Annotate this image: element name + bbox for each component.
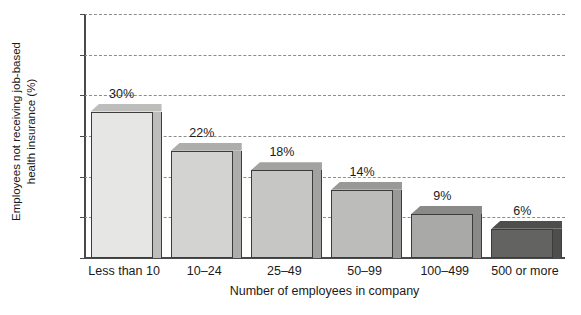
bar-side-face (473, 214, 482, 258)
bar-front-face (171, 151, 233, 258)
bar-front-face (411, 214, 473, 258)
y-axis-tick-mark (80, 136, 85, 137)
bar (91, 104, 162, 258)
bar-top-face (251, 162, 322, 170)
chart-figure: Employees not receiving job-based health… (0, 0, 581, 315)
plot-area: 30%22%18%14%9%6% (84, 14, 565, 258)
bar-side-face (313, 170, 322, 258)
bar-top-face (331, 182, 402, 190)
y-axis-tick-mark (80, 258, 85, 259)
bar-front-face (491, 229, 553, 258)
caption-sliver (6, 307, 336, 315)
x-axis-title: Number of employees in company (84, 284, 565, 298)
bar (331, 182, 402, 258)
bar-value-label: 14% (321, 165, 403, 179)
bar-value-label: 6% (481, 204, 563, 218)
bar-front-face (251, 170, 313, 258)
bar (411, 206, 482, 258)
bar-top-face (411, 206, 482, 214)
y-axis-title-line-1: Employees not receiving job-based (9, 42, 24, 221)
bar (491, 221, 562, 258)
bar-side-face (553, 229, 562, 258)
bar-value-label: 18% (241, 145, 323, 159)
bar-value-label: 22% (161, 126, 243, 140)
bar-front-face (91, 112, 153, 258)
y-axis-tick-mark (80, 177, 85, 178)
bar-top-face (491, 221, 562, 229)
gridline (84, 55, 565, 56)
y-axis-title-line-2: health insurance (%) (23, 42, 38, 221)
gridline (84, 14, 565, 15)
bar-value-label: 9% (401, 189, 483, 203)
bar-value-label: 30% (81, 87, 163, 101)
y-axis-title: Employees not receiving job-based health… (0, 0, 46, 262)
bar-top-face (91, 104, 162, 112)
bar-side-face (233, 151, 242, 258)
y-axis-tick-mark (80, 217, 85, 218)
x-axis-tick-label: 500 or more (471, 264, 579, 278)
y-axis-tick-mark (80, 55, 85, 56)
bar (171, 143, 242, 258)
y-axis-tick-mark (80, 14, 85, 15)
bar-top-face (171, 143, 242, 151)
bar-front-face (331, 190, 393, 258)
bar (251, 162, 322, 258)
